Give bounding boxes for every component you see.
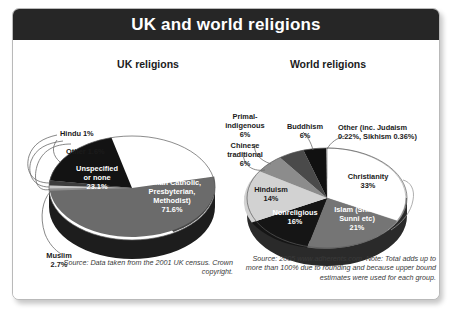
uk-label-other: Other 1.6% xyxy=(66,147,105,156)
world-label-christianity: Christianity 33% xyxy=(335,172,401,190)
chart-area: Hindu 1% Other 1.6% Unspecified or none … xyxy=(13,40,440,300)
world-label-other: Other (inc. Judaism 0.22%, Sikhism 0.36%… xyxy=(338,123,417,141)
world-source-note: Source: 2005 www.adherents.com. Note: To… xyxy=(241,254,436,282)
uk-label-christian: Christian (Anglican, Roman Catholic, Pre… xyxy=(125,169,219,214)
screenshot-root: UK and world religions UK religions Worl… xyxy=(0,0,455,314)
info-card-frame: UK and world religions UK religions Worl… xyxy=(12,8,440,300)
uk-source-note: Source: Data taken from the 2001 UK cens… xyxy=(53,258,233,277)
title-bar: UK and world religions xyxy=(13,9,439,40)
world-label-nonreligious: Nonreligious 16% xyxy=(262,208,328,226)
uk-label-unspecified: Unspecified or none 23.1% xyxy=(59,164,135,191)
charts-panel: UK religions World religions xyxy=(13,40,439,300)
world-label-islam: Islam (Shiite, Sunni etc) 21% xyxy=(326,205,388,232)
world-label-chinese: Chinese traditional 6% xyxy=(217,141,273,168)
page-title: UK and world religions xyxy=(13,9,439,40)
world-label-hinduism: Hinduism 14% xyxy=(244,185,298,203)
world-label-primal: Primal- indigenous 6% xyxy=(217,112,273,139)
world-label-buddhism: Buddhism 6% xyxy=(277,122,333,140)
uk-label-hindu: Hindu 1% xyxy=(60,129,94,138)
